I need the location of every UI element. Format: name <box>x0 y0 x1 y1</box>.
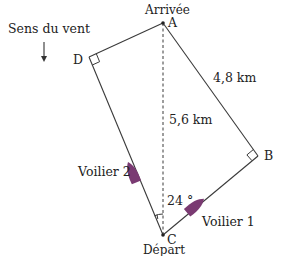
wind-label: Sens du vent <box>8 21 90 36</box>
right-angle-B-icon <box>247 150 254 161</box>
point-C-caption: Départ <box>143 243 185 256</box>
boat-2-label: Voilier 2 <box>77 164 131 179</box>
point-A-caption: Arrivée <box>144 3 190 17</box>
measure-AC: 5,6 km <box>169 112 212 127</box>
edge-AB <box>163 23 258 156</box>
point-D-label: D <box>73 52 83 67</box>
point-B-label: B <box>264 148 273 163</box>
point-A-label: A <box>167 15 178 30</box>
measure-AB: 4,8 km <box>213 70 256 85</box>
arrow-down-icon <box>41 42 47 62</box>
edge-DC <box>89 57 163 235</box>
point-A-dot <box>161 21 165 25</box>
edge-AD <box>89 23 163 57</box>
point-C-dot <box>161 233 165 237</box>
angle-arc-C <box>155 214 164 216</box>
sailing-diagram: Sens du vent Arrivée A D B C Départ 4,8 … <box>0 0 281 256</box>
boat-1-label: Voilier 1 <box>201 214 255 229</box>
